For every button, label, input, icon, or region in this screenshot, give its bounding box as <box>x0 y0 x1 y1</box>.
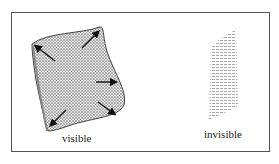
invisible-label: invisible <box>204 128 242 140</box>
visible-sheet <box>32 27 125 131</box>
invisible-sheet <box>209 30 238 120</box>
visible-label: visible <box>62 132 91 144</box>
